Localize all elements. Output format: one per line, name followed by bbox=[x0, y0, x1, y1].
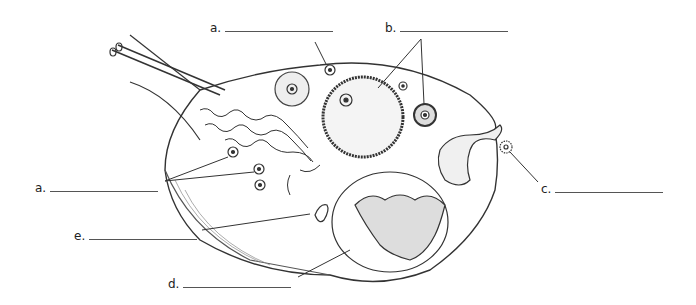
answer-blank-b[interactable] bbox=[400, 30, 508, 32]
label-e: e. bbox=[74, 229, 197, 243]
answer-blank-d[interactable] bbox=[183, 286, 291, 288]
answer-blank-a-left[interactable] bbox=[50, 190, 158, 192]
ovary-diagram bbox=[0, 0, 696, 305]
corpus-albicans bbox=[315, 205, 328, 222]
label-letter: e. bbox=[74, 229, 85, 243]
label-c: c. bbox=[541, 182, 663, 196]
label-a-top: a. bbox=[210, 21, 333, 35]
ovulated-oocyte bbox=[500, 141, 512, 153]
label-letter: a. bbox=[210, 21, 221, 35]
label-letter: d. bbox=[168, 277, 179, 291]
label-b: b. bbox=[385, 21, 508, 35]
label-letter: b. bbox=[385, 21, 396, 35]
answer-blank-a-top[interactable] bbox=[225, 30, 333, 32]
vesicular-follicle bbox=[323, 77, 403, 157]
label-letter: c. bbox=[541, 182, 551, 196]
label-a-left: a. bbox=[35, 181, 158, 195]
label-letter: a. bbox=[35, 181, 46, 195]
label-d: d. bbox=[168, 277, 291, 291]
answer-blank-e[interactable] bbox=[89, 238, 197, 240]
answer-blank-c[interactable] bbox=[555, 191, 663, 193]
